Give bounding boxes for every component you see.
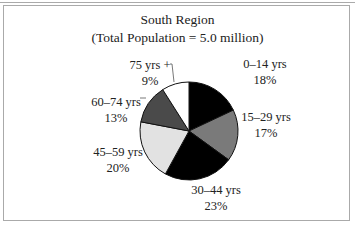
percent-label: 20%: [90, 160, 146, 176]
slice-label-45-59: 45–59 yrs 20%: [90, 144, 146, 176]
category-label: 0–14 yrs: [240, 56, 290, 72]
category-label: 30–44 yrs: [188, 182, 244, 198]
percent-label: 13%: [88, 110, 144, 126]
category-label: 15–29 yrs: [238, 109, 294, 125]
category-label: 75 yrs +: [122, 57, 178, 73]
slice-label-60-74: 60–74 yrs 13%: [88, 94, 144, 126]
category-label: 60–74 yrs: [88, 94, 144, 110]
percent-label: 18%: [240, 72, 290, 88]
pie-chart: [0, 0, 355, 226]
slice-label-75-plus: 75 yrs + 9%: [122, 57, 178, 89]
percent-label: 17%: [238, 125, 294, 141]
slice-label-0-14: 0–14 yrs 18%: [240, 56, 290, 88]
percent-label: 9%: [122, 73, 178, 89]
percent-label: 23%: [188, 198, 244, 214]
slice-label-30-44: 30–44 yrs 23%: [188, 182, 244, 214]
slice-label-15-29: 15–29 yrs 17%: [238, 109, 294, 141]
category-label: 45–59 yrs: [90, 144, 146, 160]
